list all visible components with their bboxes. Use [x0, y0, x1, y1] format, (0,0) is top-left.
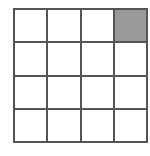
grid-cell [48, 110, 79, 141]
grid-cell [82, 10, 113, 41]
grid-cell [15, 110, 46, 141]
grid-cell [115, 110, 146, 141]
grid-cell [15, 43, 46, 74]
grid-cell [48, 10, 79, 41]
grid-cell [15, 10, 46, 41]
grid-cell-shaded [115, 10, 146, 41]
grid-cell [82, 77, 113, 108]
grid-cell [115, 43, 146, 74]
grid-cell [48, 77, 79, 108]
canvas [0, 0, 150, 156]
grid-cell [82, 110, 113, 141]
grid-cell [115, 77, 146, 108]
grid-4x4 [13, 8, 148, 143]
grid-cell [82, 43, 113, 74]
grid-cell [48, 43, 79, 74]
grid-cell [15, 77, 46, 108]
